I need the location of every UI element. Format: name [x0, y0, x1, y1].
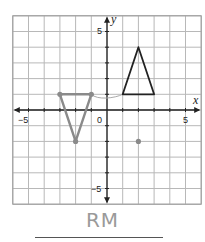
answer-line — [35, 237, 163, 238]
x-axis-label: x — [192, 93, 199, 107]
x-tick-label-neg5: −5 — [18, 115, 28, 125]
y-axis-label: y — [110, 12, 117, 26]
coordinate-grid: x y 0 −5 5 5 −5 — [0, 0, 205, 242]
x-tick-label-5: 5 — [183, 115, 188, 125]
y-tick-label-neg5: −5 — [91, 184, 101, 194]
shapes — [57, 47, 154, 144]
gray-dot — [136, 139, 141, 144]
y-tick-label-5: 5 — [97, 26, 102, 36]
gray-vertex-1 — [57, 92, 62, 97]
gray-vertex-3 — [89, 92, 94, 97]
x-axis-arrow-right-icon — [194, 107, 200, 113]
origin-label: 0 — [97, 115, 102, 125]
y-axis-arrow-down-icon — [104, 197, 110, 203]
axes — [14, 17, 200, 203]
handwritten-answer: RM — [0, 208, 205, 232]
y-axis-arrow-up-icon — [104, 17, 110, 23]
gray-vertex-2 — [73, 139, 78, 144]
x-axis-arrow-left-icon — [14, 107, 20, 113]
